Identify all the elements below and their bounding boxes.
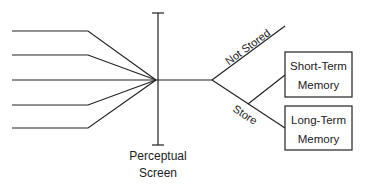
long-term-label-line1: Long-Term <box>291 114 346 126</box>
perceptual-label: Perceptual <box>129 149 186 163</box>
long-term-label-line2: Memory <box>298 133 340 145</box>
store-label: Store <box>231 102 260 126</box>
input-line-2 <box>12 55 156 80</box>
short-term-label-line2: Memory <box>298 79 340 91</box>
short-term-branch <box>248 75 285 104</box>
not-stored-label: Not Stored <box>223 26 273 67</box>
screen-label: Screen <box>139 166 177 180</box>
short-term-label-line1: Short-Term <box>290 60 347 72</box>
memory-model-diagram: Perceptual Screen Not Stored Store Short… <box>0 0 368 192</box>
input-line-5 <box>12 80 156 128</box>
input-line-4 <box>12 80 156 105</box>
